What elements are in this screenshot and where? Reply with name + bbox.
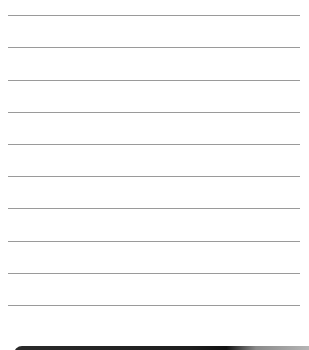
bottom-dark-bar [14,346,309,350]
ruled-line [8,273,300,274]
ruled-line [8,305,300,306]
ruled-line [8,47,300,48]
ruled-line [8,241,300,242]
lined-notepad-page[interactable] [0,0,309,350]
ruled-line [8,80,300,81]
ruled-line [8,208,300,209]
ruled-line [8,144,300,145]
ruled-line [8,176,300,177]
ruled-line [8,112,300,113]
ruled-line [8,15,300,16]
